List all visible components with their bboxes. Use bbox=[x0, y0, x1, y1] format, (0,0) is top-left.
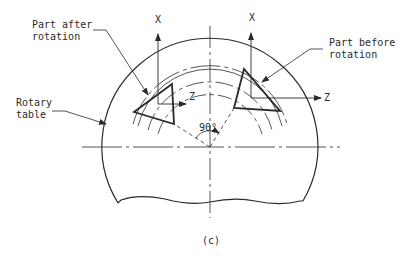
rotary-table-label-line2: table bbox=[16, 109, 46, 120]
part-before-label-line1: Part before bbox=[329, 37, 395, 48]
left-x-label: X bbox=[155, 14, 161, 25]
part-after-label-line2: rotation bbox=[32, 31, 80, 42]
figure-caption: (c) bbox=[202, 235, 220, 246]
left-z-label: Z bbox=[189, 91, 195, 102]
rotary-table-label-line1: Rotary bbox=[16, 97, 52, 108]
part-before-rotation: X Z bbox=[234, 12, 330, 111]
rotary-table-diagram: 90° X Z X Z Part after rotation Part bef… bbox=[0, 0, 409, 256]
right-z-label: Z bbox=[324, 92, 330, 103]
part-after-rotation: X Z bbox=[134, 14, 195, 124]
angle-label: 90° bbox=[199, 122, 217, 133]
right-x-label: X bbox=[249, 12, 255, 23]
part-before-label-line2: rotation bbox=[329, 49, 377, 60]
leader-lines bbox=[52, 30, 323, 124]
part-after-label-line1: Part after bbox=[32, 19, 92, 30]
